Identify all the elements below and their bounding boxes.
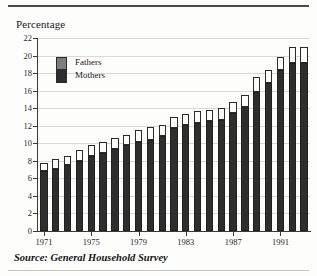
y-tick-mark bbox=[33, 231, 37, 232]
bar-segment-fathers bbox=[76, 150, 83, 161]
bar-segment-mothers bbox=[170, 128, 177, 231]
y-tick-label: 14 bbox=[24, 104, 33, 113]
bar-group bbox=[76, 150, 83, 231]
bar-group bbox=[194, 111, 201, 231]
bar-group bbox=[135, 130, 142, 231]
bar-segment-mothers bbox=[194, 123, 201, 231]
y-tick-label: 12 bbox=[24, 122, 33, 131]
bar-segment-fathers bbox=[241, 95, 248, 107]
bar-group bbox=[52, 159, 59, 231]
y-tick-label: 8 bbox=[28, 157, 32, 166]
x-tick-label: 1991 bbox=[272, 238, 289, 247]
bar-group bbox=[241, 95, 248, 231]
y-tick-mark bbox=[33, 56, 37, 57]
bar-segment-mothers bbox=[289, 63, 296, 231]
y-tick-mark bbox=[33, 38, 37, 39]
bar-group bbox=[170, 117, 177, 231]
bar-segment-fathers bbox=[99, 142, 106, 153]
bar-segment-mothers bbox=[40, 171, 47, 231]
bar-group bbox=[64, 156, 71, 231]
bar-segment-mothers bbox=[229, 113, 236, 231]
bar-group bbox=[218, 108, 225, 231]
bar-segment-fathers bbox=[206, 110, 213, 121]
bar-segment-fathers bbox=[147, 127, 154, 140]
y-tick-mark bbox=[33, 213, 37, 214]
bar-group bbox=[159, 125, 166, 231]
y-tick-label: 0 bbox=[28, 227, 32, 236]
y-tick-label: 18 bbox=[24, 69, 33, 78]
bar-segment-fathers bbox=[289, 47, 296, 63]
chart-legend: Fathers Mothers bbox=[56, 56, 134, 86]
bar-group bbox=[265, 70, 272, 231]
x-tick-mark bbox=[280, 232, 281, 236]
bar-segment-mothers bbox=[277, 70, 284, 231]
y-tick-mark bbox=[33, 126, 37, 127]
x-tick-label: 1971 bbox=[35, 238, 52, 247]
y-tick-label: 22 bbox=[24, 34, 33, 43]
bar-segment-mothers bbox=[88, 156, 95, 231]
bar-group bbox=[229, 102, 236, 231]
bar-segment-fathers bbox=[40, 163, 47, 172]
bar-segment-mothers bbox=[218, 120, 225, 231]
bar-segment-mothers bbox=[206, 121, 213, 231]
page-title: Percentage bbox=[16, 18, 65, 30]
x-tick-label: 1987 bbox=[225, 238, 242, 247]
bar-group bbox=[182, 114, 189, 231]
x-tick-mark bbox=[186, 232, 187, 236]
bottom-divider bbox=[8, 270, 309, 271]
bar-segment-mothers bbox=[253, 92, 260, 231]
bar-segment-mothers bbox=[76, 161, 83, 231]
bar-segment-fathers bbox=[88, 145, 95, 156]
bar-segment-fathers bbox=[265, 70, 272, 83]
y-tick-mark bbox=[33, 108, 37, 109]
source-note: Source: General Household Survey bbox=[14, 252, 168, 263]
x-axis-line bbox=[37, 231, 311, 232]
bar-segment-fathers bbox=[52, 159, 59, 169]
bar-segment-fathers bbox=[123, 135, 130, 146]
y-tick-label: 6 bbox=[28, 174, 32, 183]
bar-segment-fathers bbox=[135, 130, 142, 141]
bar-segment-fathers bbox=[229, 102, 236, 113]
x-tick-mark bbox=[139, 232, 140, 236]
chart-figure: Percentage 0246810121416182022 197119751… bbox=[0, 0, 317, 276]
bar-group bbox=[147, 127, 154, 231]
bar-segment-mothers bbox=[135, 142, 142, 231]
x-tick-label: 1979 bbox=[130, 238, 147, 247]
bar-segment-fathers bbox=[159, 125, 166, 136]
y-tick-label: 16 bbox=[24, 87, 33, 96]
bar-segment-mothers bbox=[52, 169, 59, 231]
y-tick-label: 4 bbox=[28, 192, 32, 201]
legend-label-mothers: Mothers bbox=[75, 70, 105, 80]
plot-wrapper: 0246810121416182022 19711975197919831987… bbox=[0, 38, 317, 234]
x-tick-mark bbox=[233, 232, 234, 236]
legend-swatch-mothers bbox=[56, 57, 67, 83]
bar-segment-fathers bbox=[253, 77, 260, 91]
bar-segment-fathers bbox=[170, 117, 177, 128]
y-tick-mark bbox=[33, 73, 37, 74]
bar-segment-fathers bbox=[194, 111, 201, 123]
x-tick-mark bbox=[44, 232, 45, 236]
bar-segment-mothers bbox=[265, 83, 272, 231]
bar-segment-mothers bbox=[241, 107, 248, 231]
bar-group bbox=[277, 57, 284, 231]
y-tick-label: 20 bbox=[24, 52, 33, 61]
bar-segment-mothers bbox=[159, 136, 166, 231]
bar-segment-fathers bbox=[218, 108, 225, 120]
bar-group bbox=[88, 145, 95, 231]
bar-segment-mothers bbox=[182, 125, 189, 231]
y-tick-mark bbox=[33, 143, 37, 144]
y-tick-mark bbox=[33, 91, 37, 92]
bar-segment-mothers bbox=[111, 149, 118, 231]
bar-group bbox=[253, 77, 260, 231]
y-tick-mark bbox=[33, 161, 37, 162]
bar-segment-fathers bbox=[300, 47, 307, 63]
y-tick-label: 10 bbox=[24, 139, 33, 148]
y-tick-label: 2 bbox=[28, 209, 32, 218]
bar-group bbox=[111, 138, 118, 231]
bar-group bbox=[123, 135, 130, 232]
bar-segment-mothers bbox=[147, 140, 154, 231]
x-tick-label: 1983 bbox=[177, 238, 194, 247]
bar-segment-fathers bbox=[64, 156, 71, 166]
bar-segment-mothers bbox=[300, 63, 307, 231]
bar-segment-mothers bbox=[99, 153, 106, 231]
